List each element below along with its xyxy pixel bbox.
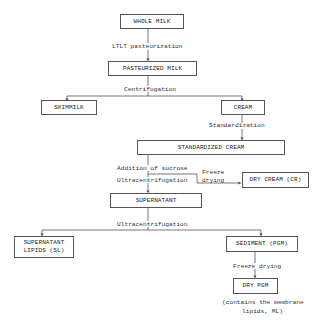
edge-label-ultracentrifugation-1: Ultracentrifugation [117,177,188,184]
edge-label-freeze: Freeze [202,169,224,176]
node-skimmilk: SKIMMILK [41,100,97,115]
edge-label-centrifugation: Centrifugation [124,86,176,93]
node-whole-milk: WHOLE MILK [120,14,184,29]
node-pasteurized-milk: PASTEURIZED MILK [108,61,197,76]
note-membrane-line1: (contains the membrane [222,299,304,306]
edge-label-standardization: Standardization [209,122,265,129]
edge-label-ultracentrifugation-2: Ultracentrifugation [117,221,188,228]
node-supernatant-lipids-line2: LIPIDS (SL) [24,247,65,255]
edge-label-addition-sucrose: Addition of sucrose [117,165,188,172]
edge-label-ltlt: LTLT pasteurization [112,43,183,50]
node-supernatant-lipids: SUPERNATANT LIPIDS (SL) [14,236,74,258]
node-cream: CREAM [221,100,265,115]
edge-label-drying: drying [202,177,224,184]
node-supernatant: SUPERNATANT [110,193,202,208]
note-membrane-line2: lipids, ML) [242,308,283,315]
node-dry-cream: DRY CREAM (CR) [242,172,309,188]
node-standardized-cream: STANDARDIZED CREAM [137,140,285,155]
edge-label-freeze-drying: Freeze drying [233,263,281,270]
node-dry-pgm: DRY PGM [233,278,278,294]
node-sediment: SEDIMENT (PGM) [226,236,298,252]
node-supernatant-lipids-line1: SUPERNATANT [24,239,65,247]
